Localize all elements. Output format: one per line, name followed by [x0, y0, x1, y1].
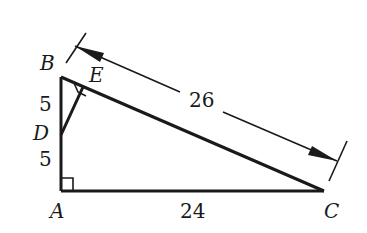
- arrowhead-b: [75, 46, 104, 62]
- vertex-label-c: C: [324, 199, 339, 223]
- right-angle-marker-a: [61, 178, 73, 191]
- triangle-diagram: B E D A C 5 5 24 26: [0, 0, 367, 233]
- vertex-label-b: B: [39, 51, 55, 75]
- length-label-ac: 24: [180, 199, 205, 223]
- dimension-tick-c: [329, 141, 347, 181]
- length-label-bd: 5: [39, 92, 52, 116]
- vertex-label-e: E: [88, 63, 104, 87]
- arrowhead-c: [308, 146, 337, 161]
- length-label-da: 5: [39, 147, 52, 171]
- segment-de: [61, 87, 83, 135]
- vertex-label-d: D: [32, 121, 49, 145]
- length-label-bc: 26: [189, 88, 214, 112]
- vertex-label-a: A: [48, 199, 64, 223]
